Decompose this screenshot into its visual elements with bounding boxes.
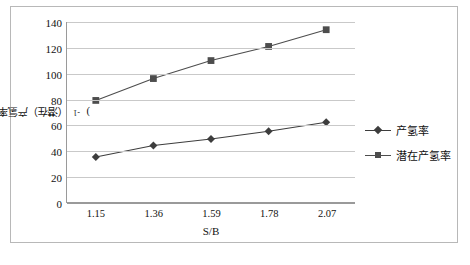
gridline: 0 <box>67 203 355 204</box>
gridline: 100 <box>67 74 355 75</box>
gridline: 20 <box>67 177 355 178</box>
x-axis-title: S/B <box>203 225 220 237</box>
chart-canvas: （潜在）产氢率/(g · kg-1) S/B 02040608010012014… <box>10 6 458 243</box>
legend-item-1: 产氢率 <box>365 122 451 138</box>
square-marker-icon <box>365 150 391 160</box>
y-axis-tick-label: 20 <box>51 173 62 184</box>
gridline: 120 <box>67 48 355 49</box>
data-point <box>207 135 215 143</box>
y-axis-tick-label: 0 <box>57 199 63 210</box>
data-point <box>149 141 157 149</box>
gridline: 140 <box>67 22 355 23</box>
y-axis-tick-label: 40 <box>51 147 62 158</box>
series-line-2 <box>96 30 326 101</box>
gridline: 80 <box>67 100 355 101</box>
x-axis-tick-label: 1.59 <box>202 209 220 220</box>
y-axis-title: （潜在）产氢率/(g · kg-1) <box>18 22 36 203</box>
data-point <box>150 75 157 82</box>
y-axis-tick-label: 80 <box>51 95 62 106</box>
plot-area: S/B 0204060801001201401.151.361.591.782.… <box>66 22 355 203</box>
y-axis-tick-label: 60 <box>51 121 62 132</box>
data-point <box>323 26 330 33</box>
y-axis-tick-label: 100 <box>46 69 63 80</box>
legend-label: 潜在产氢率 <box>396 147 451 163</box>
chart-figure: （潜在）产氢率/(g · kg-1) S/B 02040608010012014… <box>0 0 470 265</box>
y-axis-tick-label: 120 <box>46 43 63 54</box>
legend-label: 产氢率 <box>396 122 429 138</box>
legend-item-2: 潜在产氢率 <box>365 147 451 163</box>
y-axis-tick-label: 140 <box>46 18 63 29</box>
series-layer <box>67 22 355 202</box>
gridline: 60 <box>67 125 355 126</box>
x-axis-tick-label: 1.36 <box>145 209 163 220</box>
x-axis-tick-label: 1.15 <box>87 209 105 220</box>
x-axis-tick-label: 2.07 <box>318 209 336 220</box>
diamond-marker-icon <box>365 125 391 135</box>
gridline: 40 <box>67 151 355 152</box>
x-axis-tick-label: 1.78 <box>260 209 278 220</box>
data-point <box>265 127 273 135</box>
data-point <box>208 57 215 64</box>
data-point <box>92 153 100 161</box>
chart-legend: 产氢率潜在产氢率 <box>365 122 451 163</box>
